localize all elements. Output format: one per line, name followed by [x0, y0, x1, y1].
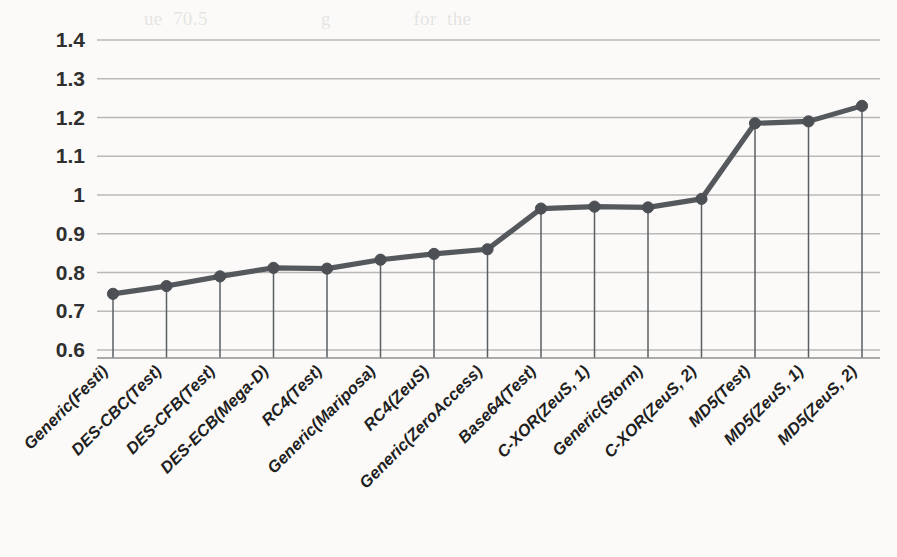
y-axis-tick-label: 1.2	[56, 106, 85, 129]
y-axis-tick-label: 1.1	[56, 144, 86, 167]
line-chart: 1.41.31.21.110.90.80.70.6 Generic(Festi)…	[0, 0, 897, 557]
data-point-marker	[161, 280, 172, 291]
data-point-marker	[696, 193, 707, 204]
data-point-marker	[482, 244, 493, 255]
data-point-marker	[428, 248, 439, 259]
data-point-marker	[214, 271, 225, 282]
data-point-marker	[803, 116, 814, 127]
y-axis-tick-label: 1	[73, 183, 85, 206]
y-axis-tick-label: 1.4	[56, 28, 86, 51]
data-point-marker	[749, 118, 760, 129]
data-point-marker	[589, 201, 600, 212]
y-axis-tick-label: 0.7	[56, 299, 85, 322]
x-axis-category-label: DES-ECB(Mega-D)	[156, 361, 271, 476]
data-point-marker	[321, 263, 332, 274]
data-point-marker	[375, 254, 386, 265]
y-axis-tick-label: 0.6	[56, 338, 85, 361]
y-axis-tick-labels: 1.41.31.21.110.90.80.70.6	[56, 28, 86, 361]
x-axis-category-label: Generic(Storm)	[548, 361, 646, 459]
y-axis-tick-label: 0.9	[56, 222, 85, 245]
data-point-marker	[268, 262, 279, 273]
x-axis-category-label: DES-CBC(Test)	[67, 361, 165, 459]
x-axis-category-label: C-XOR(ZeuS, 2)	[600, 361, 700, 461]
gridlines-group	[97, 40, 880, 350]
chart-canvas: 1.41.31.21.110.90.80.70.6 Generic(Festi)…	[0, 0, 897, 557]
data-point-marker	[856, 100, 867, 111]
drop-lines-group	[113, 106, 862, 358]
data-point-marker	[107, 288, 118, 299]
x-axis-category-label: C-XOR(ZeuS, 1)	[493, 361, 593, 461]
y-axis-tick-label: 1.3	[56, 67, 85, 90]
y-axis-tick-label: 0.8	[56, 261, 86, 284]
data-point-marker	[642, 202, 653, 213]
x-axis-tick-labels: Generic(Festi)DES-CBC(Test)DES-CFB(Test)…	[20, 361, 861, 491]
data-point-marker	[535, 203, 546, 214]
